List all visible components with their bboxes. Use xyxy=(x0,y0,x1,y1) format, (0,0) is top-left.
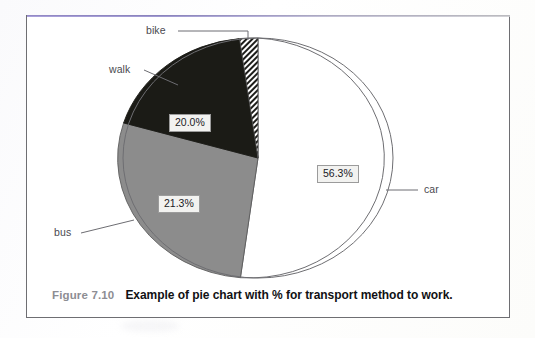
slice-label-bus: bus xyxy=(54,226,71,238)
figure-caption: Figure 7.10 Example of pie chart with % … xyxy=(52,288,453,302)
figure-number: Figure 7.10 xyxy=(52,289,114,301)
slice-label-walk: walk xyxy=(109,63,130,75)
pie-chart: bike walk bus car 20.0% 21.3% 56.3% xyxy=(26,15,510,318)
slice-value-walk: 20.0% xyxy=(169,114,211,132)
figure-page: bike walk bus car 20.0% 21.3% 56.3% Figu… xyxy=(0,0,535,338)
slice-label-bike: bike xyxy=(146,24,166,36)
slice-value-car: 56.3% xyxy=(317,165,359,183)
slice-value-bus: 21.3% xyxy=(158,195,200,213)
figure-caption-text: Example of pie chart with % for transpor… xyxy=(125,288,452,302)
pie-chart-svg xyxy=(26,15,510,318)
slice-label-car: car xyxy=(424,183,439,195)
leader-line-bus xyxy=(81,220,134,233)
pie-slice-car xyxy=(240,38,384,278)
